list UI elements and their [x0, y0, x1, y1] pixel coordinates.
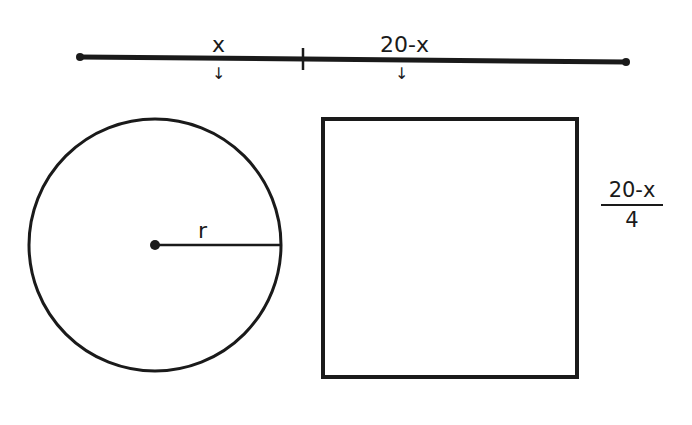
square-side-numerator: 20-x — [601, 178, 663, 206]
square-side-denominator: 4 — [601, 206, 663, 232]
segment-left-label: x — [212, 34, 225, 56]
segment-left-arrow: ↓ — [212, 66, 225, 82]
diagram-canvas — [0, 0, 692, 425]
segment-right-arrow: ↓ — [395, 66, 408, 82]
square-shape — [323, 119, 577, 377]
segment-right-endpoint — [622, 58, 630, 66]
square-side-label: 20-x 4 — [601, 178, 663, 232]
wire-segment — [80, 57, 626, 62]
segment-right-label: 20-x — [380, 34, 429, 56]
segment-left-endpoint — [76, 53, 84, 61]
radius-label: r — [198, 220, 207, 242]
